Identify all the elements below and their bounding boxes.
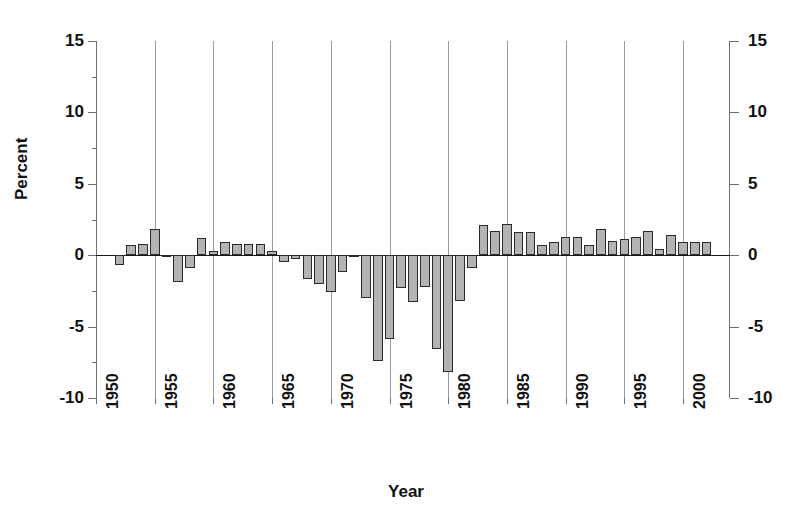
chart-figure: Percent 151510105500-5-5-10-10 195019551… — [0, 0, 812, 512]
bar — [361, 255, 371, 298]
bar — [432, 255, 442, 349]
x-tick-label: 1960 — [221, 373, 239, 409]
bar — [209, 251, 219, 255]
bar — [455, 255, 465, 301]
bar — [490, 231, 500, 255]
gridline-1970 — [331, 41, 332, 398]
x-tick-label: 1990 — [574, 373, 592, 409]
bar — [408, 255, 418, 302]
bar — [291, 255, 301, 259]
x-tick — [390, 398, 391, 404]
bar — [479, 225, 489, 255]
bar — [314, 255, 324, 284]
x-tick-label: 1965 — [280, 373, 298, 409]
x-tick-label: 2000 — [691, 373, 709, 409]
bar — [173, 255, 183, 282]
x-tick — [683, 398, 684, 404]
y-tick-label-right: 0 — [748, 246, 757, 263]
bar — [256, 244, 266, 255]
x-tick — [566, 398, 567, 404]
bar — [584, 245, 594, 255]
plot-area — [96, 41, 730, 398]
bar — [303, 255, 313, 279]
bar — [185, 255, 195, 268]
bar — [220, 242, 230, 255]
y-tick-label-left: 5 — [75, 175, 84, 192]
bar — [631, 237, 641, 256]
x-tick — [272, 398, 273, 404]
bar — [537, 245, 547, 255]
x-tick-label: 1995 — [632, 373, 650, 409]
bar — [526, 232, 536, 255]
x-tick-label: 1970 — [339, 373, 357, 409]
y-tick-right — [730, 112, 739, 113]
x-tick-label: 1985 — [515, 373, 533, 409]
x-tick — [448, 398, 449, 404]
x-tick-label: 1980 — [456, 373, 474, 409]
x-tick-label: 1955 — [163, 373, 181, 409]
y-tick-label-right: 15 — [748, 32, 767, 49]
gridline-2000 — [683, 41, 684, 398]
x-tick — [507, 398, 508, 404]
bar — [666, 235, 676, 255]
y-axis-title: Percent — [12, 138, 32, 200]
bar — [561, 237, 571, 256]
bar — [326, 255, 336, 292]
bar — [420, 255, 430, 286]
y-tick-label-right: -10 — [748, 389, 773, 406]
bar — [690, 242, 700, 255]
x-tick-label: 1950 — [104, 373, 122, 409]
gridline-1990 — [566, 41, 567, 398]
bar — [338, 255, 348, 272]
bar — [279, 255, 289, 262]
y-tick-label-right: -5 — [748, 318, 763, 335]
bar — [655, 249, 665, 255]
y-tick-right — [730, 255, 739, 256]
y-tick-label-left: 15 — [65, 32, 84, 49]
x-tick-label: 1975 — [398, 373, 416, 409]
y-tick-label-left: 10 — [65, 103, 84, 120]
x-tick — [96, 398, 97, 404]
gridline-1965 — [272, 41, 273, 398]
bar — [232, 244, 242, 255]
y-tick-label-right: 5 — [748, 175, 757, 192]
y-tick-label-right: 10 — [748, 103, 767, 120]
bar — [514, 232, 524, 255]
gridline-1985 — [507, 41, 508, 398]
x-axis-title: Year — [0, 482, 812, 502]
bar — [502, 224, 512, 255]
bar — [596, 229, 606, 255]
y-tick-right — [730, 398, 739, 399]
bar — [385, 255, 395, 339]
bar — [197, 238, 207, 255]
bar — [349, 255, 359, 257]
bar — [373, 255, 383, 361]
bar — [150, 229, 160, 255]
bar — [702, 242, 712, 255]
bar — [443, 255, 453, 372]
bar — [267, 251, 277, 255]
bar — [549, 242, 559, 255]
gridline-1995 — [624, 41, 625, 398]
bar — [115, 255, 125, 265]
y-tick-right — [730, 327, 739, 328]
bar — [138, 244, 148, 255]
y-tick-label-left: -5 — [69, 318, 84, 335]
y-tick-label-left: -10 — [59, 389, 84, 406]
x-tick — [331, 398, 332, 404]
bar — [608, 241, 618, 255]
bar — [643, 231, 653, 255]
y-tick-label-left: 0 — [75, 246, 84, 263]
x-tick — [155, 398, 156, 404]
bar — [126, 245, 136, 255]
bar — [244, 244, 254, 255]
x-tick — [213, 398, 214, 404]
bar — [678, 242, 688, 255]
bar — [620, 239, 630, 255]
y-tick-right — [730, 184, 739, 185]
y-tick-right — [730, 41, 739, 42]
x-tick — [624, 398, 625, 404]
bar — [467, 255, 477, 268]
gridline-1960 — [213, 41, 214, 398]
bar — [162, 255, 172, 257]
